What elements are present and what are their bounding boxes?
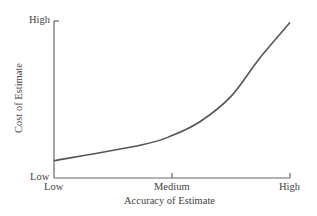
cost-accuracy-curve bbox=[54, 23, 290, 161]
x-tick-high-label: High bbox=[279, 182, 300, 193]
x-tick-low-label: Low bbox=[44, 182, 63, 193]
x-tick-medium-label: Medium bbox=[154, 182, 190, 193]
y-axis-title: Cost of Estimate bbox=[13, 63, 24, 133]
y-tick-high-label: High bbox=[29, 15, 50, 26]
x-axis-title: Accuracy of Estimate bbox=[124, 196, 215, 207]
